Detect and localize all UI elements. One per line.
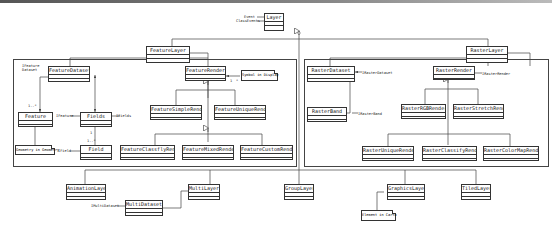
class-raster-stretch-render[interactable]: RasterStretchRender — [453, 104, 504, 119]
note-element-carto: Element in Carto — [361, 210, 396, 221]
class-name: RasterUniqueRender — [363, 147, 413, 155]
class-name: Field — [81, 146, 111, 154]
class-multi-dataset[interactable]: MultiDataset — [125, 200, 163, 216]
class-name: RasterRender — [434, 67, 474, 75]
class-feature[interactable]: Feature — [18, 112, 53, 127]
class-name: GroupLayer — [285, 185, 313, 193]
mult-label: 1..* — [87, 139, 96, 143]
class-raster-dataset[interactable]: RasterDataset — [307, 66, 355, 82]
class-fields[interactable]: Fields — [80, 112, 112, 127]
class-feature-render[interactable]: FeatureRender — [185, 66, 226, 81]
label-imulti-dataset: IMultiDataset — [91, 204, 119, 208]
class-graphics-layer[interactable]: GraphicsLayer — [387, 184, 425, 200]
class-name: RasterStretchRender — [454, 105, 503, 113]
class-feature-dataset[interactable]: FeatureDataset — [48, 66, 90, 82]
class-raster-rgb-render[interactable]: RasterRGBRender — [401, 104, 446, 119]
class-name: FeatureSimpleRender — [151, 106, 201, 114]
class-name: Feature — [19, 113, 52, 121]
class-name: FeatureLayer — [147, 47, 189, 55]
label-ifeature-dataset: IFeature Dataset — [22, 64, 44, 72]
class-name: Layer — [265, 14, 283, 22]
class-raster-unique-render[interactable]: RasterUniqueRender — [362, 146, 414, 161]
class-name: MultiLayer — [189, 185, 219, 193]
class-tiled-layer[interactable]: TiledLayer — [461, 184, 491, 200]
class-name: FeatureClassflyRender — [121, 146, 174, 154]
class-name: FeatureMixedRender — [183, 146, 233, 154]
label-ifield: IField — [58, 149, 71, 153]
class-name: FeatureDataset — [49, 67, 89, 75]
class-feature-simple-render[interactable]: FeatureSimpleRender — [150, 105, 202, 120]
label-iraster-render: IRasterRender — [482, 72, 510, 76]
class-feature-mixed-render[interactable]: FeatureMixedRender — [182, 145, 234, 160]
class-animation-layer[interactable]: AnimationLayer — [66, 184, 106, 200]
class-layer[interactable]: Layer — [264, 13, 284, 31]
class-field[interactable]: Field — [80, 145, 112, 160]
note-symbol-display: Symbol in Display — [241, 70, 278, 81]
class-name: FeatureCustomRender — [241, 146, 292, 154]
class-name: GraphicsLayer — [388, 185, 424, 193]
label-iraster-dataset: IRasterDataset — [362, 71, 392, 75]
mult-label: 1..* — [28, 104, 37, 108]
mult-label: * — [236, 79, 238, 83]
class-name: RasterClassifyRender — [423, 147, 476, 155]
class-feature-unique-render[interactable]: FeatureUniqueRender — [214, 105, 266, 120]
class-name: RasterLayer — [467, 47, 507, 55]
class-name: TiledLayer — [462, 185, 490, 193]
class-multi-layer[interactable]: MultiLayer — [188, 184, 220, 200]
class-feature-classify-render[interactable]: FeatureClassflyRender — [120, 145, 175, 160]
class-name: FeatureUniqueRender — [215, 106, 265, 114]
label-ifields: IFields — [116, 114, 131, 118]
class-name: RasterColorMapRender — [484, 147, 538, 155]
label-ifeature: IFeature — [56, 114, 73, 118]
label-iraster-band: IRasterBand — [358, 112, 382, 116]
class-raster-band[interactable]: RasterBand — [307, 107, 347, 122]
class-name: RasterRGBRender — [402, 105, 445, 113]
class-name: MultiDataset — [126, 201, 162, 209]
class-name: AnimationLayer — [67, 185, 105, 193]
class-raster-render[interactable]: RasterRender — [433, 66, 475, 80]
class-feature-custom-render[interactable]: FeatureCustomRender — [240, 145, 293, 160]
class-name: RasterBand — [308, 108, 346, 116]
class-raster-classify-render[interactable]: RasterClassifyRender — [422, 146, 477, 161]
note-geometry: Geometry in Geometry — [15, 145, 55, 155]
class-feature-layer[interactable]: FeatureLayer — [146, 46, 190, 63]
class-name: Fields — [81, 113, 111, 121]
class-raster-colormap-render[interactable]: RasterColorMapRender — [483, 146, 539, 161]
class-raster-layer[interactable]: RasterLayer — [466, 46, 508, 63]
class-name: FeatureRender — [186, 67, 225, 75]
mult-label: 1 — [90, 131, 92, 135]
class-name: RasterDataset — [308, 67, 354, 75]
mult-label: 1 — [230, 79, 232, 83]
label-class-events: ClassEvents — [236, 19, 260, 23]
class-group-layer[interactable]: GroupLayer — [284, 184, 314, 200]
